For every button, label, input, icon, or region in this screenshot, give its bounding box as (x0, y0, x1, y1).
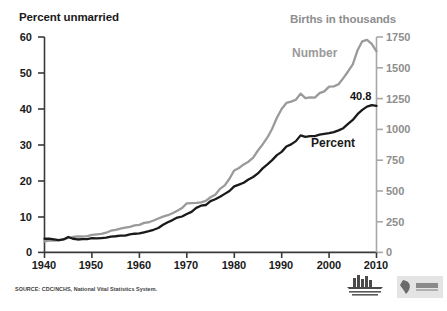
nchs-logo-label: National Center for Health Statistics (391, 274, 392, 275)
series-line-percent (45, 105, 377, 240)
source-note: SOURCE: CDC/NCHS, National Vital Statist… (15, 286, 157, 292)
end-value-annotation: 40.8 (350, 90, 371, 102)
y2-tick-label-1750: 1750 (386, 31, 410, 43)
y2-tick-label-750: 750 (386, 154, 404, 166)
y2-tick-label-1500: 1500 (386, 62, 410, 74)
x-tick-label-1940: 1940 (22, 259, 66, 271)
x-tick-label-1960: 1960 (117, 259, 161, 271)
y-tick-label-30: 30 (6, 139, 32, 151)
y-tick-label-0: 0 (6, 246, 32, 258)
x-tick-label-2000: 2000 (307, 259, 351, 271)
x-tick-label-1980: 1980 (212, 259, 256, 271)
y-tick-label-50: 50 (6, 67, 32, 79)
y2-tick-label-250: 250 (386, 216, 404, 228)
series-label-number: Number (292, 46, 337, 60)
x-tick-label-1970: 1970 (164, 259, 208, 271)
right-axis-ticks (377, 37, 384, 252)
left-axis-ticks (38, 37, 45, 252)
y-tick-label-40: 40 (6, 103, 32, 115)
nchs-logo: National Center for Health Statistics (339, 274, 391, 300)
y2-tick-label-500: 500 (386, 185, 404, 197)
y-tick-label-20: 20 (6, 175, 32, 187)
logo-group: National Center for Health Statistics CD… (339, 274, 443, 300)
y-tick-label-10: 10 (6, 211, 32, 223)
y-tick-label-60: 60 (6, 31, 32, 43)
series-label-percent: Percent (311, 136, 355, 150)
x-tick-label-1950: 1950 (69, 259, 113, 271)
y2-tick-label-1000: 1000 (386, 123, 410, 135)
x-axis-ticks (45, 252, 377, 258)
x-tick-label-2010: 2010 (354, 259, 398, 271)
y2-tick-label-1250: 1250 (386, 93, 410, 105)
x-tick-label-1990: 1990 (259, 259, 303, 271)
chart-figure: Percent unmarried Births in thousands (0, 0, 447, 311)
cdc-logo: CDC (397, 276, 443, 298)
y2-tick-label-0: 0 (386, 246, 392, 258)
